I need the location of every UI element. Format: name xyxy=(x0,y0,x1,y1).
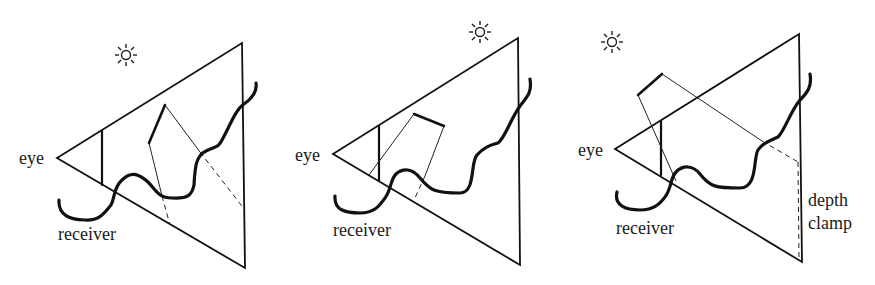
receiver-surface xyxy=(335,79,531,213)
shadow-edge-hidden xyxy=(200,152,245,210)
shadow-edge xyxy=(369,114,414,175)
receiver-surface xyxy=(59,83,256,220)
eye-label: eye xyxy=(578,140,603,160)
receiver-label: receiver xyxy=(616,218,674,238)
eye-label: eye xyxy=(19,148,44,168)
shadow-edge-hidden xyxy=(762,141,798,162)
shadow-volume-diagram: eye receiver eye receiver eye receiver d… xyxy=(0,0,875,285)
shadow-edge xyxy=(165,105,200,152)
occluder xyxy=(414,114,444,126)
panel-2: eye receiver xyxy=(295,21,531,265)
eye-label: eye xyxy=(295,145,320,165)
panel-3: eye receiver depth clamp xyxy=(578,31,852,262)
sun-icon xyxy=(115,44,137,66)
receiver-label: receiver xyxy=(58,224,116,244)
shadow-edge xyxy=(638,95,676,181)
depth-clamp-line xyxy=(798,162,799,258)
depth-clamp-label-line1: depth xyxy=(808,190,848,210)
sun-icon xyxy=(601,31,623,53)
shadow-edge xyxy=(425,126,444,176)
occluder xyxy=(638,74,662,95)
receiver-label: receiver xyxy=(333,220,391,240)
shadow-edge xyxy=(149,143,162,196)
occluder xyxy=(149,105,165,143)
shadow-edge xyxy=(662,74,762,141)
sun-icon xyxy=(469,21,491,43)
receiver-surface xyxy=(617,74,811,210)
panel-1: eye receiver xyxy=(19,43,256,268)
depth-clamp-label-line2: clamp xyxy=(808,213,852,233)
